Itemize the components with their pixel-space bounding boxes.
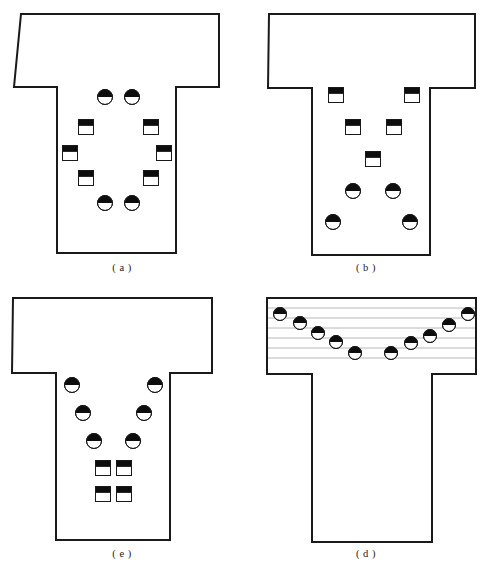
tbeam-fill [268, 14, 475, 255]
marker-circle-6[interactable] [385, 347, 398, 360]
tbeam-fill [12, 298, 212, 540]
marker-square-1[interactable] [79, 120, 94, 135]
marker-circle-3[interactable] [76, 406, 91, 421]
marker-circle-2[interactable] [386, 184, 401, 199]
marker-circle-5[interactable] [349, 347, 362, 360]
tbeam-fill [14, 14, 219, 253]
panel-b-caption: ( b ) [244, 262, 488, 273]
marker-circle-4[interactable] [125, 196, 140, 211]
panel-a-caption: ( a ) [0, 262, 244, 273]
marker-circle-3[interactable] [98, 196, 113, 211]
marker-circle-7[interactable] [405, 337, 418, 350]
marker-square-3[interactable] [63, 146, 78, 161]
marker-square-2[interactable] [405, 88, 420, 103]
marker-square-3[interactable] [96, 487, 111, 502]
marker-square-3[interactable] [346, 120, 361, 135]
marker-square-2[interactable] [117, 461, 132, 476]
panel-b-drawing [244, 0, 488, 286]
marker-square-4[interactable] [117, 487, 132, 502]
panel-d: ( d ) [244, 286, 488, 572]
panel-a-drawing [0, 0, 244, 286]
marker-circle-2[interactable] [125, 90, 140, 105]
marker-circle-2[interactable] [294, 317, 307, 330]
panel-c-drawing [0, 286, 244, 572]
panel-d-drawing [244, 286, 488, 572]
marker-square-5[interactable] [79, 171, 94, 186]
marker-circle-9[interactable] [443, 319, 456, 332]
marker-square-1[interactable] [96, 461, 111, 476]
marker-circle-2[interactable] [148, 378, 163, 393]
panel-d-caption: ( d ) [244, 548, 488, 559]
marker-circle-1[interactable] [98, 90, 113, 105]
panel-a: ( a ) [0, 0, 244, 286]
marker-circle-1[interactable] [65, 378, 80, 393]
marker-circle-4[interactable] [403, 215, 418, 230]
marker-circle-4[interactable] [137, 406, 152, 421]
panel-c: ( e ) [0, 286, 244, 572]
marker-square-6[interactable] [144, 171, 159, 186]
marker-square-5[interactable] [366, 152, 381, 167]
tbeam-fill [267, 298, 476, 542]
marker-circle-4[interactable] [330, 336, 343, 349]
marker-circle-5[interactable] [87, 434, 102, 449]
marker-circle-8[interactable] [424, 330, 437, 343]
marker-circle-1[interactable] [346, 184, 361, 199]
marker-circle-1[interactable] [274, 308, 287, 321]
marker-circle-10[interactable] [462, 308, 475, 321]
marker-circle-3[interactable] [312, 327, 325, 340]
marker-circle-6[interactable] [126, 434, 141, 449]
marker-square-1[interactable] [329, 88, 344, 103]
marker-square-4[interactable] [387, 120, 402, 135]
marker-square-2[interactable] [144, 120, 159, 135]
figure-root: ( a )( b )( e )( d ) [0, 0, 488, 572]
marker-circle-3[interactable] [326, 215, 341, 230]
panel-b: ( b ) [244, 0, 488, 286]
marker-square-4[interactable] [157, 146, 172, 161]
panel-c-caption: ( e ) [0, 548, 244, 559]
